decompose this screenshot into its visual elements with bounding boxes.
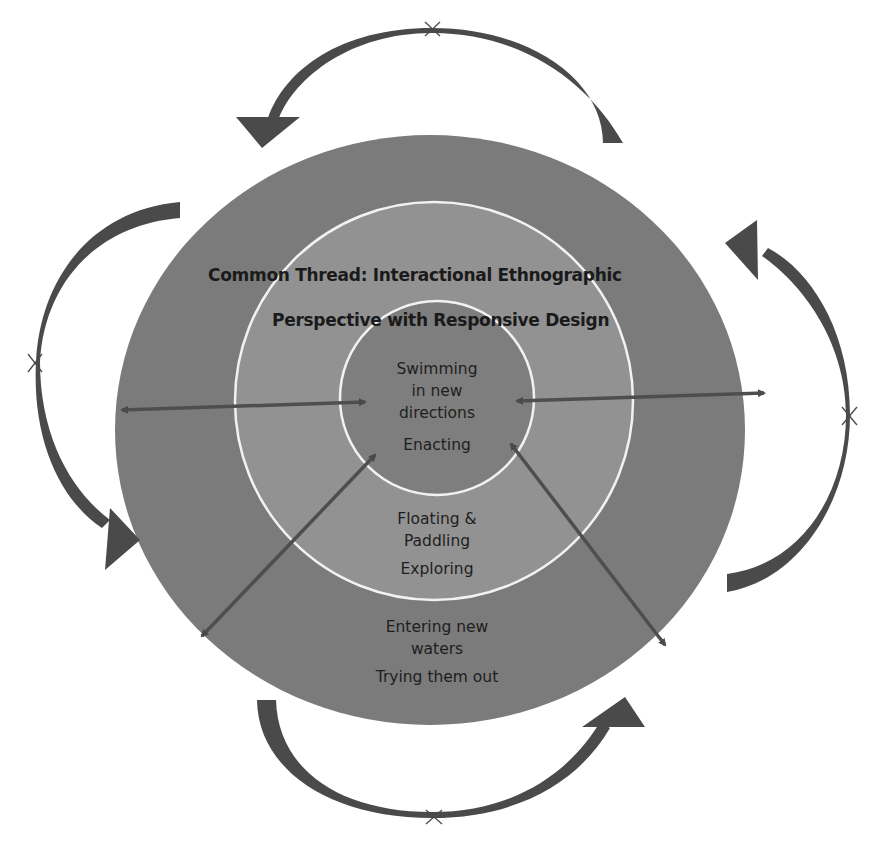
inner-ring-metaphor-1: Swimming: [372, 358, 502, 380]
inner-ring-metaphor-3: directions: [372, 402, 502, 424]
diagram-title-line-2: Perspective with Responsive Design: [272, 310, 609, 330]
inner-ring-label: Swimming in new directions Enacting: [372, 358, 502, 456]
outer-ring-metaphor-1: Entering new: [362, 616, 512, 638]
outer-ring-metaphor-2: waters: [362, 638, 512, 660]
middle-ring-metaphor-2: Paddling: [372, 530, 502, 552]
diagram-title-line-1: Common Thread: Interactional Ethnographi…: [208, 265, 622, 285]
outer-ring-action: Trying them out: [362, 666, 512, 688]
middle-ring-action: Exploring: [372, 558, 502, 580]
inner-ring-metaphor-2: in new: [372, 380, 502, 402]
outer-ring-label: Entering new waters Trying them out: [362, 616, 512, 688]
inner-ring-action: Enacting: [372, 434, 502, 456]
middle-ring-label: Floating & Paddling Exploring: [372, 508, 502, 580]
middle-ring-metaphor-1: Floating &: [372, 508, 502, 530]
cycle-arrow-top: [236, 22, 623, 148]
cycle-arrow-right: [725, 220, 857, 592]
